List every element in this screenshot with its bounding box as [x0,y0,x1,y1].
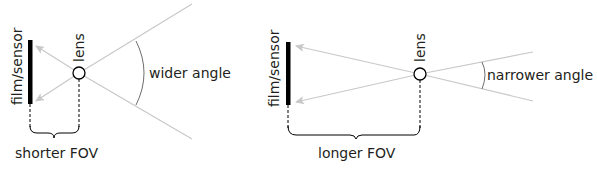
fov-diagram: film/sensor lens wider angle shorter FOV… [0,0,597,171]
lens-label: lens [71,33,87,62]
ray-lower-incoming [79,73,192,139]
angle-arc [136,41,144,105]
lens-circle [73,67,85,79]
angle-label: wider angle [149,65,231,81]
ray-upper-incoming [79,4,192,73]
angle-arc [482,62,485,89]
sensor-bar [28,40,33,104]
fov-label: shorter FOV [15,145,99,161]
angle-label: narrower angle [487,67,593,83]
lens-label: lens [412,33,428,62]
fov-brace [30,126,79,138]
left-diagram: film/sensor lens wider angle shorter FOV [9,4,231,161]
sensor-label: film/sensor [9,27,25,105]
ray-lower-to-sensor [296,46,420,74]
ray-upper-to-sensor [36,73,79,101]
sensor-bar [286,42,291,105]
fov-brace [288,126,420,139]
fov-label: longer FOV [318,145,396,161]
sensor-label: film/sensor [266,29,282,107]
ray-upper-to-sensor [296,74,420,102]
lens-circle [414,68,426,80]
right-diagram: film/sensor lens narrower angle longer F… [266,29,593,161]
